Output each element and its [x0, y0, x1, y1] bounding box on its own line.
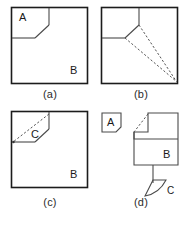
- chamfer-edge-a: [35, 25, 49, 38]
- label-region-b-in-a: B: [70, 64, 77, 76]
- label-region-c: C: [31, 128, 39, 140]
- label-piece-c-d: C: [167, 185, 174, 196]
- label-piece-b-d: B: [163, 148, 170, 160]
- panel-b-drawing: [100, 6, 180, 86]
- chamfer-edge-b: [125, 25, 139, 38]
- piece-b-inner-guide-d: [134, 132, 178, 139]
- caption-d: (d): [100, 196, 182, 208]
- caption-c: (c): [10, 196, 90, 208]
- dashed-ray-lower-b: [125, 38, 177, 82]
- panel-c-drawing: C B: [10, 110, 90, 190]
- caption-b: (b): [100, 88, 182, 100]
- piece-c-sliver-d: [145, 180, 166, 196]
- label-region-b-in-c: B: [70, 168, 77, 180]
- panel-d-drawing: A B C: [100, 110, 188, 202]
- caption-a: (a): [10, 88, 90, 100]
- figure-root: A B (a) (b): [0, 0, 190, 230]
- dashed-ray-upper-b: [139, 25, 177, 82]
- label-piece-a-d: A: [107, 116, 115, 128]
- label-region-a: A: [19, 11, 27, 23]
- panel-a-drawing: A B: [10, 6, 90, 86]
- dashed-endpoint-dot-c: [12, 141, 14, 143]
- dashed-chamfer-d: [134, 114, 148, 132]
